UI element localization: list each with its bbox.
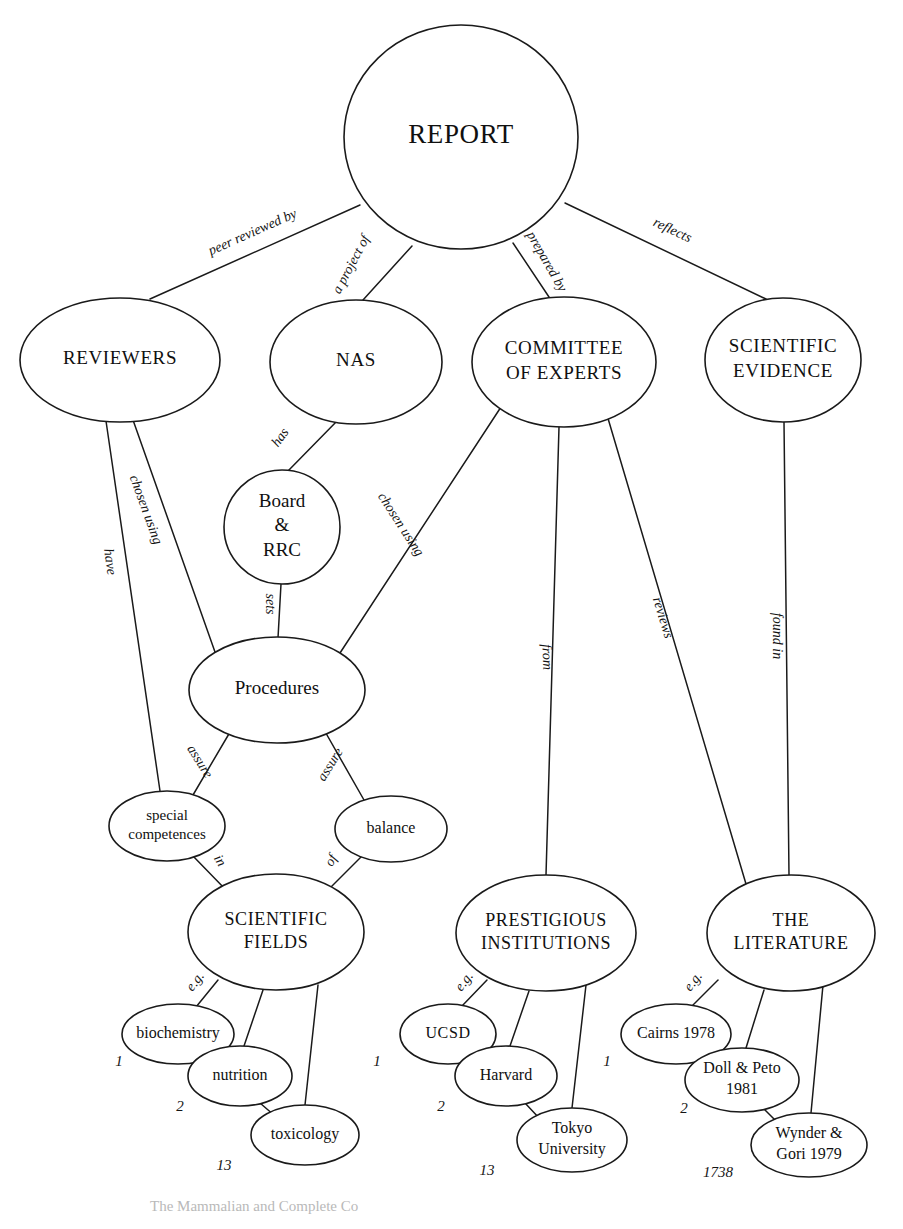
idx-harvard: 2 [437,1098,445,1114]
node-wynder[interactable]: Wynder &Gori 1979 [751,1113,867,1177]
node-fields[interactable]: SCIENTIFICFIELDS [188,874,364,990]
idx-toxicology: 13 [217,1157,232,1173]
idx-nutrition: 2 [176,1098,184,1114]
node-toxicology[interactable]: toxicology [251,1105,359,1165]
idx-wynder: 1738 [703,1164,734,1180]
node-label-wynder: Gori 1979 [776,1145,841,1162]
node-board[interactable]: Board&RRC [224,470,340,584]
node-label-cairns: Cairns 1978 [637,1024,715,1041]
node-label-institutions: INSTITUTIONS [481,933,611,953]
node-label-procedures: Procedures [235,677,319,698]
node-label-evidence: SCIENTIFIC [729,335,837,356]
node-label-committee: OF EXPERTS [506,362,622,383]
concept-map-diagram: REPORTREVIEWERSNASCOMMITTEEOF EXPERTSSCI… [0,0,903,1229]
node-tokyo[interactable]: TokyoUniversity [517,1108,627,1172]
node-harvard[interactable]: Harvard [455,1046,557,1106]
node-dollpeto[interactable]: Doll & Peto1981 [685,1048,799,1112]
node-label-dollpeto: 1981 [726,1080,758,1097]
node-label-competences: competences [128,826,206,842]
node-reviewers[interactable]: REVIEWERS [20,298,220,422]
node-label-competences: special [146,807,188,823]
edge-label-committee-inst: from [539,644,555,670]
node-label-tokyo: Tokyo [552,1119,593,1137]
node-evidence[interactable]: SCIENTIFICEVIDENCE [705,298,861,422]
node-balance[interactable]: balance [335,796,447,862]
node-label-dollpeto: Doll & Peto [703,1059,780,1076]
node-label-nutrition: nutrition [212,1066,267,1083]
node-literature[interactable]: THELITERATURE [707,875,875,991]
node-label-tokyo: University [538,1140,606,1158]
node-label-committee: COMMITTEE [505,337,623,358]
idx-ucsd: 1 [373,1053,381,1069]
idx-biochemistry: 1 [115,1053,123,1069]
figure-caption: The Mammalian and Complete Co [150,1198,358,1214]
node-institutions[interactable]: PRESTIGIOUSINSTITUTIONS [456,875,636,991]
node-label-biochemistry: biochemistry [136,1024,220,1042]
node-label-reviewers: REVIEWERS [63,347,177,368]
node-competences[interactable]: specialcompetences [109,791,225,861]
node-label-wynder: Wynder & [775,1124,843,1142]
edge-label-evidence-lit: found in [770,613,785,659]
node-label-fields: FIELDS [244,932,309,952]
node-label-balance: balance [367,819,416,836]
node-committee[interactable]: COMMITTEEOF EXPERTS [472,297,656,427]
node-label-institutions: PRESTIGIOUS [485,910,607,930]
node-label-board: Board [259,490,306,511]
node-label-literature: THE [773,910,810,930]
node-label-ucsd: UCSD [425,1024,470,1041]
node-label-nas: NAS [336,349,376,370]
node-procedures[interactable]: Procedures [189,637,365,743]
node-label-fields: SCIENTIFIC [224,909,327,929]
node-nutrition[interactable]: nutrition [188,1046,292,1106]
node-label-board: & [275,514,290,535]
concept-map-canvas: REPORTREVIEWERSNASCOMMITTEEOF EXPERTSSCI… [0,0,903,1229]
idx-tokyo: 13 [480,1162,495,1178]
node-label-harvard: Harvard [480,1066,532,1083]
node-label-toxicology: toxicology [271,1125,339,1143]
node-label-board: RRC [263,539,301,560]
node-label-literature: LITERATURE [734,933,849,953]
edge-label-board-procedures: sets [263,594,278,616]
node-nas[interactable]: NAS [270,300,442,424]
node-label-report: REPORT [408,119,514,149]
node-label-evidence: EVIDENCE [733,360,833,381]
node-report[interactable]: REPORT [344,25,578,249]
caption-layer: The Mammalian and Complete Co [150,1198,358,1214]
idx-dollpeto: 2 [680,1100,688,1116]
idx-cairns: 1 [603,1053,611,1069]
